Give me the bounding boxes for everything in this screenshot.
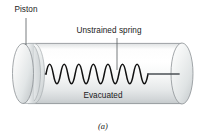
figure-canvas: Evacuated	[0, 0, 206, 137]
label-unstrained-spring: Unstrained spring	[76, 26, 141, 35]
label-evacuated: Evacuated	[83, 91, 123, 100]
physics-figure-piston-spring: Evacuated	[0, 0, 206, 137]
figure-caption: (a)	[98, 121, 108, 131]
label-piston: Piston	[14, 5, 37, 14]
piston-disc	[13, 44, 45, 104]
